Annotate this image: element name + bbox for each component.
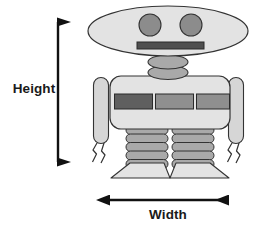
- claw-left: [93, 143, 106, 163]
- diagram-canvas: Height Width: [0, 0, 267, 232]
- mouth: [137, 42, 204, 49]
- chest-panel-3: [197, 94, 230, 109]
- robot-diagram: [0, 0, 267, 232]
- claw-right: [228, 143, 241, 163]
- arm-right: [229, 78, 244, 144]
- eye-right: [180, 14, 202, 36]
- chest-panel-2: [156, 94, 194, 109]
- neck-disc-upper: [148, 55, 188, 69]
- leg-right: [172, 126, 214, 169]
- robot-figure: [88, 6, 248, 178]
- width-label: Width: [112, 207, 224, 222]
- height-label: Height: [6, 81, 62, 96]
- eye-left: [139, 14, 161, 36]
- foot-left: [111, 163, 170, 178]
- chest-panel-1: [115, 94, 153, 109]
- foot-right: [170, 163, 229, 178]
- arm-left: [94, 78, 109, 144]
- leg-left: [126, 126, 168, 169]
